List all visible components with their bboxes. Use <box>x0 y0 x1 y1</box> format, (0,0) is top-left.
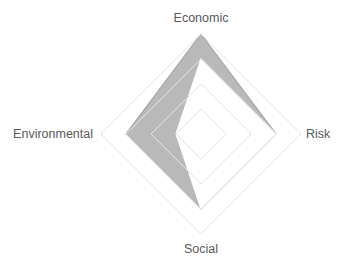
radar-chart: Economic Risk Social Environmental <box>0 0 342 261</box>
axis-label-social: Social <box>184 242 218 256</box>
axis-label-risk: Risk <box>306 127 331 141</box>
axis-label-economic: Economic <box>174 11 229 25</box>
axis-label-environmental: Environmental <box>13 127 93 141</box>
series-layer <box>126 34 276 209</box>
